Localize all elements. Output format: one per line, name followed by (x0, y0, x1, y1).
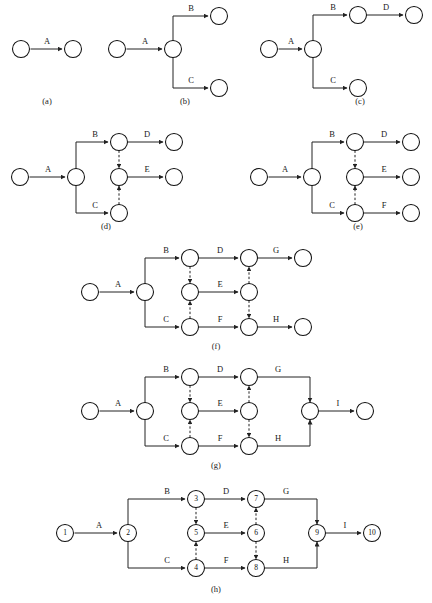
f-n7 (241, 284, 258, 301)
panel-caption-h: (h) (211, 584, 221, 594)
h-n7-label: 7 (254, 494, 258, 503)
g-edge-B (145, 377, 179, 403)
g-n8 (241, 438, 258, 455)
b-n3 (211, 8, 228, 25)
e-n2 (304, 169, 321, 186)
e-edge-F-label: F (382, 200, 387, 210)
f-n9 (241, 319, 258, 336)
g-edge-H (258, 420, 311, 446)
b-edge-B (173, 16, 208, 41)
g-edge-H-label: H (275, 433, 281, 443)
panel-b: ABC(b) (109, 3, 228, 106)
g-n5 (182, 403, 199, 420)
b-n2 (165, 41, 182, 58)
f-edge-F-label: F (218, 314, 223, 324)
f-n4 (241, 250, 258, 267)
g-n10 (357, 403, 374, 420)
e-n5 (347, 169, 364, 186)
h-edge-F-label: F (224, 555, 229, 565)
d-n4 (166, 134, 183, 151)
d-edge-B (76, 142, 108, 169)
f-edge-C (145, 301, 179, 328)
panel-c: ABDC(c) (261, 2, 423, 106)
c-edge-A-label: A (288, 36, 295, 46)
g-n1 (82, 403, 99, 420)
d-edge-B-label: B (92, 129, 98, 139)
panel-caption-d: (d) (101, 221, 111, 231)
d-edge-A-label: A (45, 164, 52, 174)
g-edge-G (258, 377, 311, 402)
g-edge-G-label: G (275, 364, 281, 374)
f-edge-H-label: H (273, 314, 279, 324)
d-n3 (111, 134, 128, 151)
e-n4 (403, 134, 420, 151)
panel-d: ABDEC(d) (12, 129, 183, 231)
h-edge-A-label: A (96, 520, 103, 530)
e-edge-D-label: D (381, 129, 387, 139)
a-edge-A-label: A (44, 36, 51, 46)
panel-a: A(a) (13, 36, 82, 106)
h-n3-label: 3 (194, 494, 198, 503)
e-edge-A-label: A (282, 164, 289, 174)
e-n6 (403, 169, 420, 186)
b-edge-C-label: C (188, 75, 194, 85)
h-n5-label: 5 (194, 528, 198, 537)
h-edge-G-label: G (283, 486, 289, 496)
e-edge-B-label: B (329, 129, 335, 139)
f-n3 (182, 250, 199, 267)
g-edge-E-label: E (217, 398, 222, 408)
f-n10 (295, 319, 312, 336)
f-n8 (182, 319, 199, 336)
f-n1 (82, 284, 99, 301)
g-n2 (137, 403, 154, 420)
d-n2 (68, 169, 85, 186)
d-n1 (12, 169, 29, 186)
c-edge-C-label: C (330, 75, 336, 85)
a-n1 (13, 41, 30, 58)
g-edge-B-label: B (163, 364, 169, 374)
e-edge-C (312, 186, 344, 214)
f-edge-C-label: C (163, 314, 169, 324)
f-edge-D-label: D (217, 245, 223, 255)
h-edge-H (265, 542, 318, 568)
h-edge-B-label: B (164, 486, 170, 496)
f-edge-G-label: G (273, 245, 279, 255)
panel-caption-f: (f) (212, 341, 221, 351)
g-edge-D-label: D (217, 364, 223, 374)
panel-caption-a: (a) (42, 96, 52, 106)
e-n7 (347, 205, 364, 222)
f-n6 (182, 284, 199, 301)
g-n9 (302, 403, 319, 420)
h-edge-H-label: H (283, 555, 289, 565)
g-edge-F-label: F (218, 433, 223, 443)
c-n2 (305, 41, 322, 58)
g-edge-C (145, 420, 179, 447)
d-edge-D-label: D (144, 129, 150, 139)
f-n5 (295, 250, 312, 267)
h-edge-G (265, 499, 318, 524)
e-n8 (403, 205, 420, 222)
h-n6-label: 6 (254, 528, 258, 537)
e-n3 (347, 134, 364, 151)
h-n1-label: 1 (63, 528, 67, 537)
f-edge-B (145, 258, 179, 284)
h-n9-label: 9 (315, 528, 319, 537)
d-edge-C-label: C (92, 200, 98, 210)
f-edge-E-label: E (217, 279, 222, 289)
f-n2 (137, 284, 154, 301)
e-edge-C-label: C (329, 200, 335, 210)
panel-caption-b: (b) (180, 96, 190, 106)
panel-caption-c: (c) (355, 96, 365, 106)
g-n6 (241, 403, 258, 420)
g-edge-C-label: C (163, 433, 169, 443)
g-edge-I-label: I (337, 398, 340, 408)
h-n10-label: 10 (368, 528, 376, 537)
h-edge-B (128, 499, 185, 525)
h-edge-C-label: C (164, 555, 170, 565)
c-edge-D-label: D (383, 2, 389, 12)
b-n4 (211, 80, 228, 97)
b-n1 (109, 41, 126, 58)
b-edge-A-label: A (142, 36, 149, 46)
network-diagram-figure: A(a)ABC(b)ABDC(c)ABDEC(d)ABDECF(e)ABDGEC… (0, 0, 432, 603)
d-n5 (111, 169, 128, 186)
